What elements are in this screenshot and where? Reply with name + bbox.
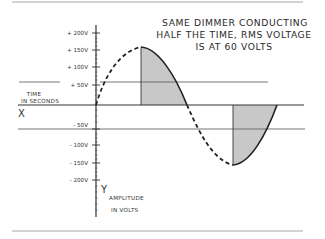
sine-wave-diagram: + 200V + 150V + 100V + 50V - 50V - 100V …	[0, 0, 325, 239]
tick-label-minus-50: - 50V	[73, 122, 88, 128]
negative-conducting-area	[233, 105, 277, 165]
tick-label-minus-200: - 200V	[70, 177, 88, 183]
x-axis-label-line-1: TIME	[26, 91, 42, 97]
title-line-2: HALF THE TIME, RMS VOLTAGE	[156, 29, 311, 40]
tick-label-plus-150: + 150V	[67, 47, 88, 53]
dashed-wave-rise	[96, 47, 141, 105]
x-axis-letter: X	[18, 108, 25, 119]
tick-label-plus-50: + 50V	[71, 82, 89, 88]
y-axis-label-line-1: AMPLITUDE	[109, 195, 144, 201]
tick-label-plus-100: + 100V	[67, 64, 88, 70]
tick-label-minus-100: - 100V	[70, 142, 88, 148]
positive-conducting-area	[141, 47, 187, 105]
dashed-wave-fall	[187, 105, 233, 165]
title-line-3: IS AT 60 VOLTS	[195, 41, 272, 52]
title-line-1: SAME DIMMER CONDUCTING	[162, 17, 308, 28]
y-axis-label-line-2: IN VOLTS	[111, 207, 139, 213]
tick-label-plus-200: + 200V	[67, 30, 88, 36]
y-axis-letter: Y	[100, 184, 108, 195]
tick-label-minus-150: - 150V	[70, 160, 88, 166]
x-axis-label-line-2: IN SECONDS	[21, 98, 59, 104]
